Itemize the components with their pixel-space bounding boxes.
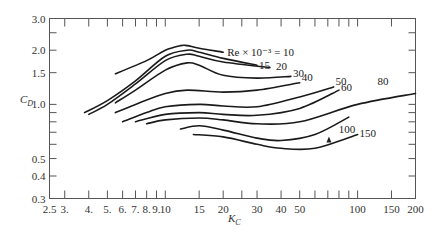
y-axis-title: CD <box>20 93 33 108</box>
curve-label-20: 20 <box>276 60 288 72</box>
curve-label-80: 80 <box>378 75 390 87</box>
x-tick-label: 30 <box>252 203 264 215</box>
x-tick-label: 7. <box>131 203 140 215</box>
x-tick-label: 6. <box>118 203 127 215</box>
curve-label-100: 100 <box>339 123 356 135</box>
x-tick-label: 8. <box>143 203 152 215</box>
x-tick-label: 150 <box>383 203 400 215</box>
x-tick-label: 10 <box>160 203 172 215</box>
y-tick-label: 0.3 <box>32 193 46 205</box>
curve-label-40: 40 <box>302 71 314 83</box>
y-tick-label: 2.0 <box>32 44 46 56</box>
y-tick-label: 0.5 <box>32 153 46 165</box>
y-tick-label: 1.0 <box>32 98 46 110</box>
curve-label-150: 150 <box>360 127 377 139</box>
y-tick-label: 3.0 <box>32 13 46 25</box>
x-tick-label: 100 <box>349 203 366 215</box>
y-tick-label: 0.4 <box>32 170 46 182</box>
arrow-icon <box>326 137 331 143</box>
curve-re-150 <box>193 135 357 150</box>
x-tick-label: 5. <box>103 203 112 215</box>
y-tick-label: 1.5 <box>32 67 46 79</box>
x-tick-label: 15 <box>194 203 206 215</box>
x-tick-label: 2.5 <box>43 203 57 215</box>
drag-coefficient-chart: 2.53.4.5.6.7.8.9.1015203040501001502000.… <box>0 0 440 237</box>
x-tick-label: 50 <box>294 203 306 215</box>
x-tick-label: 3. <box>61 203 70 215</box>
x-axis-title: KC <box>227 212 241 227</box>
curve-label-15: 15 <box>259 59 271 71</box>
curve-label-10: Re × 10⁻³ = 10 <box>227 46 294 58</box>
x-tick-label: 40 <box>276 203 288 215</box>
x-tick-label: 200 <box>407 203 424 215</box>
curve-label-60: 60 <box>341 81 353 93</box>
curve-re-80 <box>147 94 416 125</box>
curve-re-40 <box>115 83 299 113</box>
x-tick-label: 4. <box>85 203 94 215</box>
curve-re-100 <box>181 117 349 141</box>
